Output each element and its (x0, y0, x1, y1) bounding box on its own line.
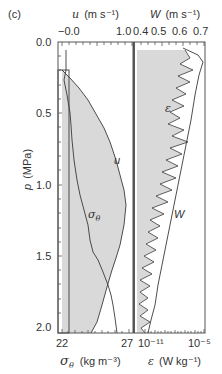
w-axis-ticks (134, 42, 204, 46)
tick-p-15: 1.5 (36, 250, 51, 262)
tick-u-1: 1.0 (116, 25, 131, 37)
tick-eps-min: 10⁻¹¹ (138, 337, 164, 349)
u-curve-label: u (114, 154, 120, 166)
tick-w-05: 0.5 (151, 25, 166, 37)
tick-w-07: 0.7 (193, 25, 208, 37)
panel-label: (c) (8, 8, 21, 20)
bottom-right-axis-title: ε (W kg⁻¹) (148, 355, 201, 368)
top-right-axis-title: W (m s⁻¹) (150, 8, 200, 20)
p-axis-ticks (58, 56, 62, 313)
w-curve-label: W (174, 208, 186, 220)
tick-eps-max: 10⁻⁵ (188, 337, 211, 349)
tick-p-10: 1.0 (36, 179, 51, 191)
tick-w-04: 0.4 (133, 25, 148, 37)
chart-figure: (c) u (m s⁻¹) W (m s⁻¹) −0.0 1.0 0.4 0.5… (0, 0, 222, 374)
left-panel: u σθ (58, 42, 133, 333)
left-top-ticks (62, 42, 132, 46)
tick-u-0: −0.0 (58, 25, 80, 37)
epsilon-axis-ticks (145, 329, 204, 333)
left-axis-title: p (MPa) (21, 149, 33, 191)
tick-p-05: 0.5 (36, 107, 51, 119)
epsilon-fill-area (137, 50, 193, 333)
right-panel: ε W (134, 42, 205, 333)
tick-sigma-22: 22 (56, 337, 68, 349)
bottom-left-axis-title: σθ (kg m⁻³) (60, 353, 121, 370)
top-left-axis-title: u (m s⁻¹) (72, 8, 119, 21)
tick-p-00: 0.0 (36, 36, 51, 48)
tick-w-06: 0.6 (172, 25, 187, 37)
epsilon-curve-label: ε (165, 102, 171, 115)
tick-p-20: 2.0 (36, 321, 51, 333)
tick-sigma-27: 27 (121, 337, 133, 349)
u-fill-area (62, 70, 126, 333)
